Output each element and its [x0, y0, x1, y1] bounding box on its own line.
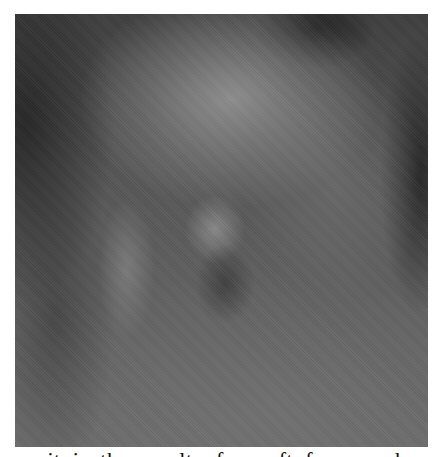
caption-line-clipped: it is the result of a soft focus and: [0, 447, 448, 457]
caption-text: it is the result of a soft focus and: [0, 449, 448, 457]
blurred-photo: [15, 14, 428, 447]
